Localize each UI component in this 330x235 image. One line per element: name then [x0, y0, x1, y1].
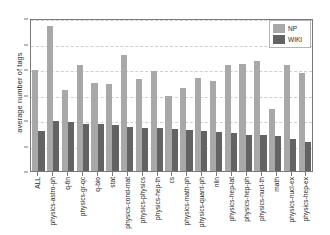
x-axis-tick-labels: ALLphysics-astro-phq-finphysics-gr-qcq-b… — [30, 176, 313, 234]
bar-group — [223, 20, 238, 171]
x-tick-label: nlin — [213, 177, 220, 187]
legend-swatch-np — [273, 24, 285, 33]
bar-wiki — [142, 128, 148, 171]
x-tick-label-slot: physics-hep-ph — [238, 176, 253, 234]
bar-wiki — [112, 125, 118, 171]
x-tick-label-slot: physics-nucl-th — [253, 176, 268, 234]
x-tick-label-slot: physics-cond-mat — [119, 176, 134, 234]
x-tick-label: q-bio — [94, 177, 101, 192]
x-tick-label-slot: ALL — [30, 176, 45, 234]
bar-wiki — [98, 124, 104, 171]
legend-label-np: NP — [288, 24, 297, 33]
bar-wiki — [83, 124, 89, 171]
x-tick-label-slot: physics-quant-ph — [194, 176, 209, 234]
x-tick-label-slot: physics-physics — [134, 176, 149, 234]
bar-wiki — [53, 121, 59, 171]
bar-wiki — [231, 133, 237, 171]
bar-group — [135, 20, 150, 171]
x-tick-label: physics-hep-ex — [302, 177, 309, 221]
x-tick-label-slot: physics-hep-lat — [224, 176, 239, 234]
y-tick-mark — [24, 172, 28, 173]
bar-wiki — [290, 139, 296, 171]
x-tick-label: cs — [168, 177, 175, 184]
x-tick-label-slot: q-fin — [60, 176, 75, 234]
x-tick-label: physics-nucl-th — [257, 177, 264, 221]
bar-group — [149, 20, 164, 171]
x-tick-label-slot: physics-math-ph — [179, 176, 194, 234]
legend-item-np: NP — [273, 23, 307, 34]
x-tick-label-slot: physics-hep-th — [149, 176, 164, 234]
x-tick-label: stat — [108, 177, 115, 188]
x-tick-label: math — [272, 177, 279, 192]
x-tick-label-slot: cs — [164, 176, 179, 234]
bar-wiki — [201, 131, 207, 171]
legend-label-wiki: WIKI — [288, 35, 302, 44]
x-tick-label: physics-hep-ph — [242, 177, 249, 222]
bar-group — [75, 20, 90, 171]
y-tick-mark — [24, 70, 28, 71]
legend-item-wiki: WIKI — [273, 34, 307, 45]
bar-wiki — [186, 130, 192, 171]
y-axis-label: average number of tags — [15, 18, 24, 168]
x-tick-label-slot: nlin — [209, 176, 224, 234]
y-tick-mark — [24, 95, 28, 96]
bar-group — [164, 20, 179, 171]
x-tick-label: physics-hep-lat — [228, 177, 235, 221]
bar-group — [105, 20, 120, 171]
y-tick-mark — [24, 121, 28, 122]
x-tick-label-slot: q-bio — [90, 176, 105, 234]
x-tick-label-slot: physics-gr-qc — [75, 176, 90, 234]
x-tick-label-slot: stat — [104, 176, 119, 234]
bar-wiki — [260, 135, 266, 171]
bar-wiki — [157, 128, 163, 171]
x-tick-label-slot: physics-astro-ph — [45, 176, 60, 234]
bar-wiki — [216, 132, 222, 171]
y-tick-mark — [24, 44, 28, 45]
bar-group — [209, 20, 224, 171]
x-tick-label-slot: math — [268, 176, 283, 234]
bar-wiki — [127, 127, 133, 171]
x-tick-label: physics-nucl-ex — [287, 177, 294, 222]
bar-group — [253, 20, 268, 171]
chart-legend: NP WIKI — [269, 20, 311, 48]
bar-wiki — [305, 142, 311, 171]
x-tick-label: physics-hep-th — [153, 177, 160, 220]
bar-group — [90, 20, 105, 171]
x-tick-label: q-fin — [64, 177, 71, 190]
bar-group — [238, 20, 253, 171]
x-tick-label-slot: physics-nucl-ex — [283, 176, 298, 234]
x-tick-label: physics-math-ph — [183, 177, 190, 225]
x-tick-label: physics-cond-mat — [123, 177, 130, 229]
x-tick-label: physics-physics — [138, 177, 145, 223]
bar-group — [46, 20, 61, 171]
bar-group — [179, 20, 194, 171]
bar-group — [120, 20, 135, 171]
x-tick-label-slot: physics-hep-ex — [298, 176, 313, 234]
bar-wiki — [275, 136, 281, 171]
x-tick-label: ALL — [34, 177, 41, 189]
x-tick-label: physics-astro-ph — [49, 177, 56, 225]
x-tick-label: physics-quant-ph — [198, 177, 205, 227]
bar-chart-figure: average number of tags 051015202530 ALLp… — [0, 0, 330, 235]
bar-wiki — [246, 135, 252, 171]
bar-group — [31, 20, 46, 171]
y-tick-mark — [24, 146, 28, 147]
bar-wiki — [68, 122, 74, 171]
legend-swatch-wiki — [273, 35, 285, 44]
bar-group — [194, 20, 209, 171]
x-tick-label: physics-gr-qc — [79, 177, 86, 216]
bar-wiki — [38, 131, 44, 171]
bar-wiki — [172, 129, 178, 171]
y-tick-mark — [24, 19, 28, 20]
bar-group — [61, 20, 76, 171]
